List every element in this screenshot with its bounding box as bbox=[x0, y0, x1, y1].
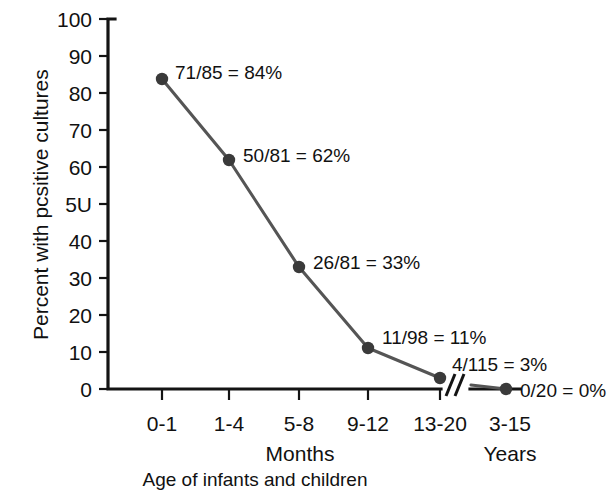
x-tick-label-13-20: 13-20 bbox=[413, 413, 467, 434]
y-tick-label-100: 100 bbox=[30, 9, 92, 30]
y-tick-label-60: 60 bbox=[30, 157, 92, 178]
y-tick-label-80: 80 bbox=[30, 83, 92, 104]
x-tick-label-5-8: 5-8 bbox=[284, 413, 314, 434]
y-tick-label-70: 70 bbox=[30, 120, 92, 141]
data-label-13-20: 4/115 = 3% bbox=[452, 355, 547, 374]
x-axis-label: Age of infants and children bbox=[143, 470, 368, 489]
data-label-9-12: 11/98 = 11% bbox=[382, 328, 486, 347]
data-label-5-8: 26/81 = 33% bbox=[313, 253, 420, 272]
y-tick-label-10: 10 bbox=[30, 342, 92, 363]
y-tick-label-20: 20 bbox=[30, 305, 92, 326]
data-point bbox=[500, 383, 512, 395]
data-point bbox=[434, 372, 446, 384]
y-tick-label-0: 0 bbox=[30, 379, 92, 400]
data-point bbox=[293, 261, 305, 273]
data-point bbox=[362, 342, 374, 354]
x-axis-ticks bbox=[162, 389, 440, 400]
axis-break-icon bbox=[446, 374, 464, 396]
y-tick-label-50: 5U bbox=[30, 194, 92, 215]
data-label-0-1: 71/85 = 84% bbox=[175, 63, 282, 82]
data-point bbox=[223, 154, 235, 166]
x-group-label-months: Months bbox=[266, 443, 335, 464]
x-tick-label-1-4: 1-4 bbox=[214, 413, 244, 434]
data-point bbox=[156, 73, 168, 85]
x-tick-label-3-15: 3-15 bbox=[489, 413, 531, 434]
x-tick-label-0-1: 0-1 bbox=[147, 413, 177, 434]
x-group-label-years: Years bbox=[484, 443, 537, 464]
data-label-1-4: 50/81 = 62% bbox=[243, 146, 350, 165]
y-tick-label-30: 30 bbox=[30, 268, 92, 289]
y-tick-label-90: 90 bbox=[30, 46, 92, 67]
y-tick-label-40: 40 bbox=[30, 231, 92, 252]
data-label-3-15: 0/20 = 0% bbox=[520, 381, 606, 400]
x-tick-label-9-12: 9-12 bbox=[347, 413, 389, 434]
